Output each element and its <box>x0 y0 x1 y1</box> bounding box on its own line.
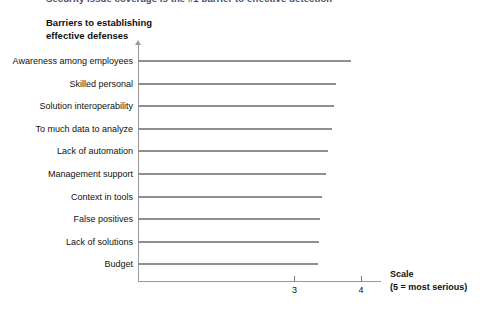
bar-category-label: Lack of automation <box>57 144 133 158</box>
x-axis-tick-label: 4 <box>351 285 371 295</box>
bar-category-label: To much data to analyze <box>35 122 133 136</box>
bar-row: Skilled personal <box>138 77 381 91</box>
bar-row: To much data to analyze <box>138 122 381 136</box>
bar-category-label: False positives <box>73 212 133 226</box>
bar-row: False positives <box>138 212 381 226</box>
bar <box>138 83 336 85</box>
bar <box>138 60 351 62</box>
scale-legend-label: Scale <box>390 268 467 281</box>
bar <box>138 241 319 243</box>
bar-category-label: Lack of solutions <box>66 235 133 249</box>
bar-category-label: Context in tools <box>71 190 133 204</box>
bar <box>138 105 334 107</box>
bar-row: Budget <box>138 257 381 271</box>
bar-chart-plot: 34 Awareness among employeesSkilled pers… <box>0 0 483 309</box>
bar-row: Management support <box>138 167 381 181</box>
bar <box>138 150 328 152</box>
bar-row: Awareness among employees <box>138 54 381 68</box>
bar <box>138 196 322 198</box>
bar-category-label: Budget <box>104 257 133 271</box>
bar <box>138 263 318 265</box>
scale-legend: Scale (5 = most serious) <box>390 268 467 293</box>
x-axis-tick <box>361 276 362 282</box>
bar-row: Lack of automation <box>138 144 381 158</box>
scale-legend-note: (5 = most serious) <box>390 281 467 294</box>
chart-page: Security issue coverage is the #1 barrie… <box>0 0 483 309</box>
bar-category-label: Skilled personal <box>69 77 133 91</box>
bar <box>138 128 332 130</box>
bar <box>138 173 326 175</box>
bar-row: Context in tools <box>138 190 381 204</box>
x-axis-tick <box>294 276 295 282</box>
bar-category-label: Awareness among employees <box>13 54 133 68</box>
bar-category-label: Management support <box>48 167 133 181</box>
bar-category-label: Solution interoperability <box>39 99 133 113</box>
bar-row: Solution interoperability <box>138 99 381 113</box>
x-axis-line <box>138 281 381 282</box>
bar <box>138 218 320 220</box>
bar-row: Lack of solutions <box>138 235 381 249</box>
x-axis-tick-label: 3 <box>284 285 304 295</box>
